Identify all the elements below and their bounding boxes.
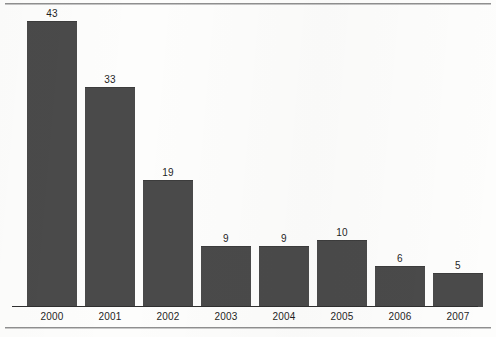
bar-2004[interactable] <box>259 246 309 307</box>
bar-2003[interactable] <box>201 246 251 307</box>
bar-2006[interactable] <box>375 266 425 307</box>
bar-value-label-2003: 9 <box>201 233 251 244</box>
x-axis-line <box>12 306 478 307</box>
bar-group-2002[interactable]: 19 <box>143 1 193 307</box>
category-label-2002: 2002 <box>143 311 193 322</box>
bar-group-2004[interactable]: 9 <box>259 1 309 307</box>
chart-bottom-border <box>5 327 491 328</box>
bar-2007[interactable] <box>433 273 483 307</box>
bar-value-label-2004: 9 <box>259 233 309 244</box>
bar-2000[interactable] <box>27 21 77 307</box>
bar-group-2007[interactable]: 5 <box>433 1 483 307</box>
bar-value-label-2006: 6 <box>375 253 425 264</box>
category-label-2005: 2005 <box>317 311 367 322</box>
bar-value-label-2000: 43 <box>27 8 77 19</box>
bar-group-2003[interactable]: 9 <box>201 1 251 307</box>
bar-group-2001[interactable]: 33 <box>85 1 135 307</box>
bar-value-label-2005: 10 <box>317 227 367 238</box>
bar-group-2005[interactable]: 10 <box>317 1 367 307</box>
plot-area: 433319991065 <box>0 0 496 307</box>
bar-chart: 433319991065 200020012002200320042005200… <box>0 0 496 337</box>
category-label-2003: 2003 <box>201 311 251 322</box>
category-label-2006: 2006 <box>375 311 425 322</box>
category-label-2004: 2004 <box>259 311 309 322</box>
bar-2001[interactable] <box>85 87 135 307</box>
bar-value-label-2007: 5 <box>433 260 483 271</box>
category-label-2001: 2001 <box>85 311 135 322</box>
bar-group-2006[interactable]: 6 <box>375 1 425 307</box>
bar-group-2000[interactable]: 43 <box>27 1 77 307</box>
category-label-2000: 2000 <box>27 311 77 322</box>
bar-value-label-2002: 19 <box>143 167 193 178</box>
category-axis: 20002001200220032004200520062007 <box>0 309 496 329</box>
bar-2005[interactable] <box>317 240 367 307</box>
bar-value-label-2001: 33 <box>85 74 135 85</box>
category-label-2007: 2007 <box>433 311 483 322</box>
bar-2002[interactable] <box>143 180 193 307</box>
